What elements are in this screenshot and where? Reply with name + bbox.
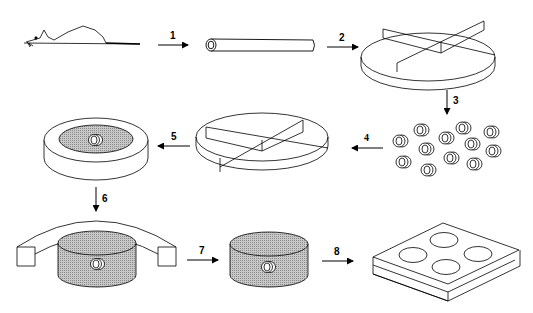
cylinder-with-mold-icon — [17, 221, 176, 287]
arrow-step-8: 8 — [322, 246, 353, 261]
tube-segments-icon — [393, 122, 501, 176]
step-8-label: 8 — [334, 246, 340, 257]
arrow-step-5: 5 — [158, 131, 190, 146]
step-6-label: 6 — [102, 193, 108, 204]
step-2-label: 2 — [339, 32, 345, 43]
divided-dish-top-icon — [361, 21, 495, 90]
arrow-step-7: 7 — [187, 245, 218, 260]
process-diagram: 1 2 3 — [0, 0, 533, 313]
arrow-step-4: 4 — [352, 132, 383, 148]
arrow-step-6: 6 — [96, 187, 108, 211]
arrow-step-1: 1 — [158, 30, 188, 45]
cylinder-block-icon — [230, 232, 308, 287]
step-5-label: 5 — [171, 131, 177, 142]
well-plate-icon — [373, 223, 520, 301]
step-3-label: 3 — [453, 95, 459, 106]
tube-icon — [206, 39, 315, 51]
step-7-label: 7 — [199, 245, 205, 256]
mouse-icon — [24, 26, 140, 47]
embedded-disc-icon — [44, 118, 148, 180]
arrow-step-2: 2 — [327, 32, 358, 47]
divided-dish-middle-icon — [196, 113, 328, 172]
step-1-label: 1 — [170, 30, 176, 41]
step-4-label: 4 — [364, 132, 369, 143]
arrow-step-3: 3 — [447, 90, 459, 114]
